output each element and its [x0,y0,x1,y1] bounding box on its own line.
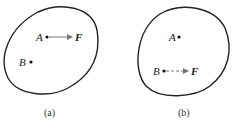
rigid-body-outline [4,7,98,94]
point-a-dot [45,35,48,38]
point-b-dot [162,69,165,72]
diagram-canvas: A F B (a) A B F (b) [0,0,234,128]
force-f-label: F [190,65,199,77]
figure-a: A F B (a) [4,7,98,119]
caption-a: (a) [44,107,55,119]
point-a-label: A [35,31,43,43]
point-b-label: B [19,56,26,68]
caption-b: (b) [178,107,190,119]
point-a-dot [177,35,180,38]
point-b-dot [29,60,32,63]
point-b-label: B [153,65,160,77]
point-a-label: A [168,31,176,43]
force-f-label: F [74,31,83,43]
rigid-body-outline [138,7,229,95]
figure-b: A B F (b) [138,7,229,119]
